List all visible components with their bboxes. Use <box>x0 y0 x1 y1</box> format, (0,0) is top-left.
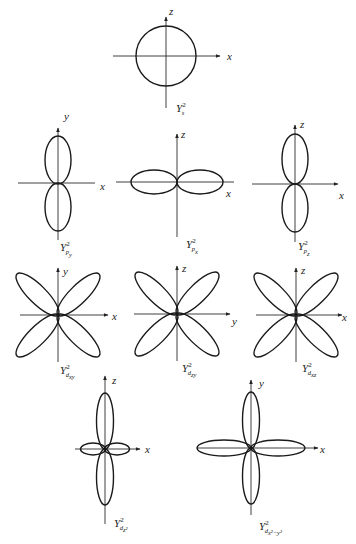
lobe-ne <box>171 267 225 321</box>
axis-label-x: x <box>338 189 344 201</box>
lobe-sw <box>130 308 184 362</box>
orbital-dxz: x z Y2dxz <box>249 264 347 378</box>
orbital-dx2y2: x y Y2dx²−y² <box>197 377 325 536</box>
lobe-nw <box>52 268 106 322</box>
axis-label-y: y <box>258 377 264 389</box>
lobe-se <box>290 309 344 363</box>
orbital-dzy: y z Y2dzy <box>130 262 237 378</box>
orbital-px: x z Y2px <box>116 128 234 255</box>
axis-label-x: x <box>144 443 150 455</box>
lobe-nw <box>130 267 184 321</box>
lobe-sw <box>249 309 303 363</box>
axis-label-z: z <box>111 374 117 386</box>
orbital-py: x y Y2py <box>18 110 105 258</box>
axis-label-x: x <box>319 443 325 455</box>
axis-label-z: z <box>180 128 186 140</box>
axis-label-z: z <box>181 262 187 274</box>
lobe-sw <box>11 309 65 363</box>
orbital-label-dx2y2: Y2dx²−y² <box>259 519 283 536</box>
axis-label-x: x <box>341 311 347 323</box>
axis-label-z: z <box>168 5 174 17</box>
lobe-se <box>52 309 106 363</box>
orbital-pz: x z Y2pz <box>252 118 344 257</box>
orbital-diagram: x z Y2s x y Y2py x z Y2px x z Y2pz <box>0 0 356 544</box>
orbital-label-dzy: Y2dzy <box>182 361 196 378</box>
axis-label-x: x <box>111 310 117 322</box>
axis-label-z: z <box>299 118 305 130</box>
axis-label-y: y <box>63 110 69 122</box>
orbital-label-dxy: Y2dxy <box>60 363 75 380</box>
orbital-s: x z Y2s <box>113 5 232 116</box>
orbital-label-pz: Y2pz <box>298 239 310 257</box>
orbital-label-s: Y2s <box>176 101 186 116</box>
lobe-ne <box>11 268 65 322</box>
orbital-dxy: x y Y2dxy <box>11 265 117 380</box>
axis-label-y: y <box>62 265 68 277</box>
axis-label-x: x <box>226 50 232 62</box>
orbital-label-px: Y2px <box>186 237 198 255</box>
orbital-label-dz2: Y2dz² <box>114 516 128 533</box>
orbital-label-dxz: Y2dxz <box>302 361 317 378</box>
lobe-se <box>171 308 225 362</box>
lobe-nw <box>249 268 303 322</box>
orbital-label-py: Y2py <box>60 240 72 258</box>
axis-label-z: z <box>300 264 306 276</box>
axis-label-x: x <box>99 180 105 192</box>
orbital-dz2: x z Y2dz² <box>75 374 150 533</box>
axis-label-y: y <box>231 315 237 327</box>
axis-label-x: x <box>225 187 231 199</box>
lobe-ne <box>290 268 344 322</box>
